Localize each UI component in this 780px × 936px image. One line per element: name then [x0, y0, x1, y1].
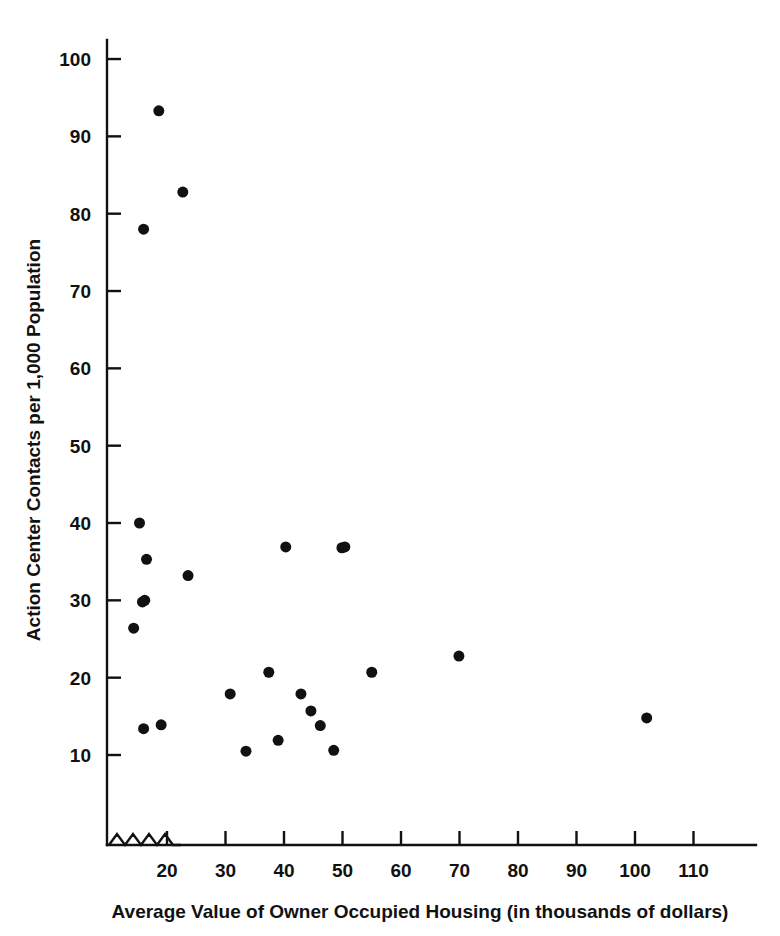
data-point [156, 719, 167, 730]
y-tick-label: 10 [70, 745, 91, 766]
data-point [138, 224, 149, 235]
x-tick-label: 70 [449, 860, 470, 881]
x-tick-label: 20 [156, 860, 177, 881]
x-axis-ticks [167, 831, 694, 845]
data-point [153, 105, 164, 116]
y-tick-label: 60 [70, 358, 91, 379]
data-point [225, 688, 236, 699]
data-point [263, 667, 274, 678]
y-tick-label: 90 [70, 126, 91, 147]
x-axis-title: Average Value of Owner Occupied Housing … [112, 901, 729, 922]
x-tick-label: 80 [507, 860, 528, 881]
data-point [128, 623, 139, 634]
data-point [328, 745, 339, 756]
data-point [183, 570, 194, 581]
data-point [240, 746, 251, 757]
y-tick-label: 100 [59, 49, 91, 70]
x-tick-label: 110 [678, 860, 709, 881]
data-point [315, 720, 326, 731]
x-tick-label: 90 [566, 860, 587, 881]
y-tick-label: 80 [70, 204, 91, 225]
y-tick-label: 20 [70, 668, 91, 689]
data-point [336, 542, 347, 553]
data-point [641, 712, 652, 723]
data-point [280, 541, 291, 552]
x-tick-label: 30 [215, 860, 236, 881]
data-point [134, 518, 145, 529]
scatter-plot-figure: 102030405060708090100 203040506070809010… [0, 0, 780, 936]
axes-group [107, 40, 756, 845]
y-tick-label: 50 [70, 436, 91, 457]
y-tick-label: 30 [70, 590, 91, 611]
y-tick-label: 40 [70, 513, 91, 534]
data-point [177, 187, 188, 198]
data-point-series [128, 105, 652, 756]
y-axis-title: Action Center Contacts per 1,000 Populat… [23, 239, 44, 641]
data-point [305, 705, 316, 716]
x-axis-tick-labels: 2030405060708090100110 [156, 860, 708, 881]
x-tick-label: 40 [273, 860, 294, 881]
y-axis-ticks [107, 59, 121, 755]
data-point [453, 651, 464, 662]
data-point [295, 688, 306, 699]
y-tick-label: 70 [70, 281, 91, 302]
data-point [138, 723, 149, 734]
data-point [139, 595, 150, 606]
plot-canvas: 102030405060708090100 203040506070809010… [0, 0, 780, 936]
x-axis-break-zigzag-icon [109, 834, 181, 845]
x-tick-label: 50 [332, 860, 353, 881]
data-point [273, 735, 284, 746]
data-point [141, 554, 152, 565]
x-tick-label: 100 [619, 860, 651, 881]
y-axis-tick-labels: 102030405060708090100 [59, 49, 91, 766]
data-point [366, 667, 377, 678]
x-tick-label: 60 [390, 860, 411, 881]
